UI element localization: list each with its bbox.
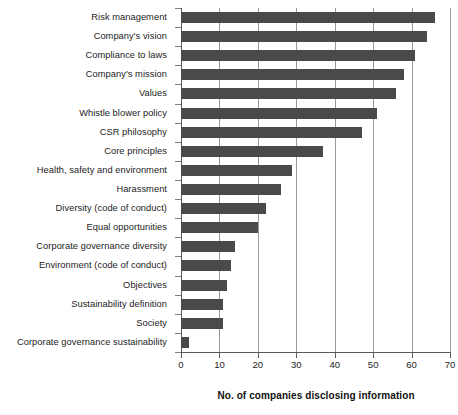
x-axis-tick-label: 50	[368, 359, 379, 370]
bar	[181, 203, 266, 214]
bar-row	[181, 104, 450, 123]
bar	[181, 127, 362, 138]
x-axis-tick	[219, 353, 220, 358]
plot-area	[181, 8, 450, 352]
x-axis-tick	[450, 353, 451, 358]
bar	[181, 69, 404, 80]
bar-row	[181, 256, 450, 275]
bar	[181, 299, 223, 310]
category-label: CSR philosophy	[0, 123, 174, 142]
bar-row	[181, 295, 450, 314]
bar	[181, 241, 235, 252]
x-axis-ticks	[181, 353, 451, 358]
bar	[181, 184, 281, 195]
bar-row	[181, 333, 450, 352]
x-axis-tick-label: 60	[406, 359, 417, 370]
bar-row	[181, 237, 450, 256]
bar-row	[181, 123, 450, 142]
category-label: Sustainability definition	[0, 295, 174, 314]
bar-row	[181, 180, 450, 199]
x-axis-tick	[181, 353, 182, 358]
bar-row	[181, 27, 450, 46]
x-axis-tick-labels: 010203040506070	[181, 359, 451, 373]
x-axis-tick	[258, 353, 259, 358]
category-label: Corporate governance sustainability	[0, 333, 174, 352]
x-axis-tick	[296, 353, 297, 358]
bar	[181, 165, 292, 176]
category-label: Society	[0, 314, 174, 333]
category-axis-labels: Risk managementCompany's visionComplianc…	[0, 8, 174, 352]
bar-row	[181, 84, 450, 103]
category-label: Objectives	[0, 276, 174, 295]
category-label: Health, safety and environment	[0, 161, 174, 180]
bar-row	[181, 161, 450, 180]
bar	[181, 12, 435, 23]
x-axis-tick-label: 10	[214, 359, 225, 370]
bar-row	[181, 46, 450, 65]
bar	[181, 318, 223, 329]
bar	[181, 50, 415, 61]
x-axis-tick	[412, 353, 413, 358]
x-axis-tick-label: 20	[253, 359, 264, 370]
bar-row	[181, 199, 450, 218]
x-axis-tick	[373, 353, 374, 358]
category-label: Risk management	[0, 8, 174, 27]
horizontal-bar-chart: Risk managementCompany's visionComplianc…	[0, 0, 458, 415]
category-label: Diversity (code of conduct)	[0, 199, 174, 218]
category-label: Harassment	[0, 180, 174, 199]
category-label: Values	[0, 84, 174, 103]
x-axis-tick-label: 40	[329, 359, 340, 370]
category-label: Environment (code of conduct)	[0, 256, 174, 275]
bar-row	[181, 142, 450, 161]
bar	[181, 260, 231, 271]
category-label: Corporate governance diversity	[0, 237, 174, 256]
category-label: Company's mission	[0, 65, 174, 84]
bar	[181, 146, 323, 157]
category-label: Compliance to laws	[0, 46, 174, 65]
x-axis-tick-label: 0	[178, 359, 183, 370]
category-label: Whistle blower policy	[0, 104, 174, 123]
bar-series	[181, 8, 450, 352]
bar-row	[181, 314, 450, 333]
bar	[181, 88, 396, 99]
x-axis-title: No. of companies disclosing information	[181, 390, 451, 401]
category-label: Equal opportunities	[0, 218, 174, 237]
category-label: Company's vision	[0, 27, 174, 46]
bar	[181, 222, 258, 233]
bar-row	[181, 65, 450, 84]
bar	[181, 31, 427, 42]
category-label: Core principles	[0, 142, 174, 161]
bar	[181, 337, 189, 348]
bar-row	[181, 276, 450, 295]
bar	[181, 280, 227, 291]
gridline	[450, 8, 451, 352]
bar-row	[181, 218, 450, 237]
x-axis-tick	[335, 353, 336, 358]
bar-row	[181, 8, 450, 27]
x-axis-tick-label: 70	[445, 359, 456, 370]
x-axis-tick-label: 30	[291, 359, 302, 370]
bar	[181, 108, 377, 119]
